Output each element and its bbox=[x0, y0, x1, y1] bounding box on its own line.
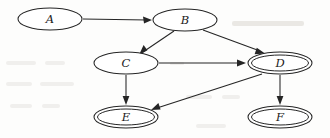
edge-a-to-b bbox=[83, 17, 152, 24]
node-d[interactable]: D bbox=[248, 52, 312, 74]
edge-b-to-d bbox=[203, 30, 265, 54]
node-d-label: D bbox=[274, 56, 284, 70]
edge-c-to-d bbox=[159, 60, 246, 67]
node-c-label: C bbox=[122, 56, 131, 70]
edge-b-to-c bbox=[139, 31, 174, 55]
scan-artifact bbox=[6, 61, 36, 65]
scan-artifact bbox=[45, 61, 65, 65]
scan-artifact bbox=[40, 82, 74, 86]
arrowhead bbox=[123, 96, 130, 105]
diagram-canvas: A B C D E F bbox=[0, 0, 330, 138]
arrowhead bbox=[277, 96, 284, 105]
node-a[interactable]: A bbox=[18, 8, 82, 30]
edge-d-to-f bbox=[277, 75, 284, 105]
edge-c-to-e bbox=[123, 75, 130, 105]
node-e[interactable]: E bbox=[94, 106, 158, 128]
node-a-label: A bbox=[45, 12, 54, 26]
node-f[interactable]: F bbox=[248, 106, 312, 128]
node-b[interactable]: B bbox=[153, 9, 217, 31]
node-b-label: B bbox=[180, 13, 189, 27]
edge-d-to-e bbox=[151, 74, 262, 110]
scan-artifact bbox=[42, 104, 60, 108]
graph-diagram: A B C D E F bbox=[0, 0, 330, 138]
node-e-label: E bbox=[121, 110, 131, 124]
arrowhead bbox=[151, 103, 161, 110]
scan-artifact bbox=[10, 104, 32, 108]
scan-artifact bbox=[222, 95, 240, 99]
scan-artifact bbox=[232, 21, 304, 26]
scan-artifact bbox=[6, 82, 32, 86]
scan-artifact bbox=[196, 124, 226, 128]
node-c[interactable]: C bbox=[94, 52, 158, 74]
node-f-label: F bbox=[275, 110, 285, 124]
arrowhead bbox=[237, 60, 246, 67]
arrowhead bbox=[143, 17, 152, 24]
